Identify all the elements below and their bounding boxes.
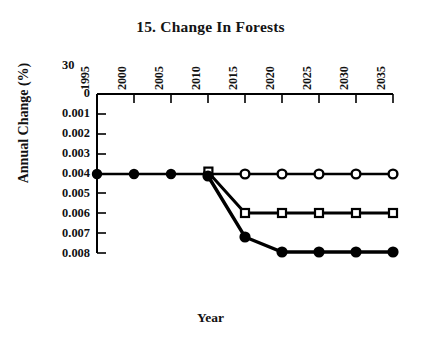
data-point bbox=[240, 232, 249, 241]
data-point bbox=[130, 170, 138, 178]
data-point bbox=[315, 170, 324, 179]
data-point bbox=[389, 209, 397, 217]
data-point bbox=[314, 247, 323, 256]
data-point bbox=[352, 209, 360, 217]
data-point bbox=[389, 170, 398, 179]
data-point bbox=[167, 170, 175, 178]
series-open-circle bbox=[93, 170, 398, 179]
plot-area bbox=[0, 0, 421, 348]
data-point bbox=[203, 171, 212, 180]
x-axis-ticks bbox=[97, 94, 393, 103]
data-point bbox=[241, 209, 249, 217]
chart-figure: 15. Change In Forests Annual Change (%) … bbox=[0, 0, 421, 348]
data-point bbox=[315, 209, 323, 217]
data-point bbox=[388, 247, 397, 256]
data-point bbox=[278, 170, 287, 179]
data-point bbox=[351, 247, 360, 256]
data-point bbox=[352, 170, 361, 179]
data-point bbox=[278, 209, 286, 217]
data-point bbox=[277, 247, 286, 256]
data-point bbox=[241, 170, 250, 179]
data-point bbox=[93, 170, 101, 178]
